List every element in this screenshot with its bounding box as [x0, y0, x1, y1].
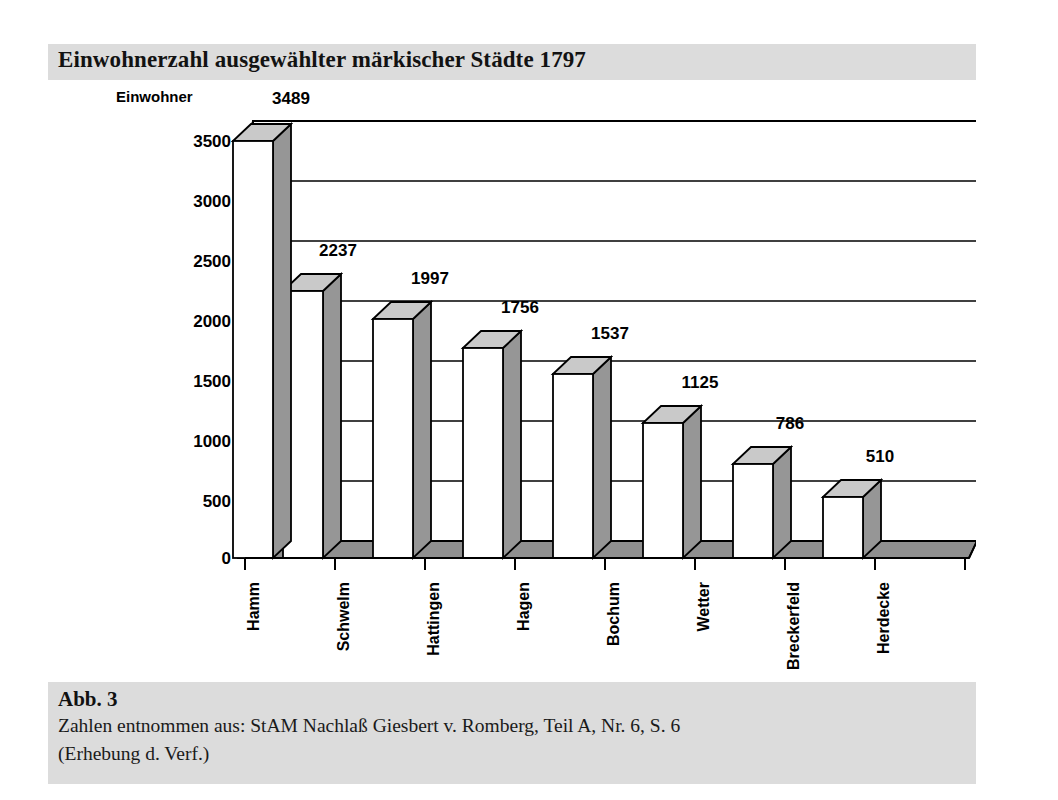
figure-title-band: Einwohnerzahl ausgewählter märkischer St…	[48, 44, 976, 80]
bar-value-label: 1537	[591, 324, 629, 343]
figure-caption-band: Abb. 3 Zahlen entnommen aus: StAM Nachla…	[48, 682, 976, 784]
page-title: Einwohnerzahl ausgewählter märkischer St…	[58, 47, 586, 73]
x-category-label: Bochum	[605, 582, 622, 646]
bar-value-label: 1756	[501, 298, 539, 317]
x-category-label: Hamm	[245, 582, 262, 631]
bar-hagen[interactable]	[463, 331, 521, 558]
bar-value-label: 3489	[272, 89, 310, 108]
bar-wetter[interactable]	[643, 406, 701, 558]
x-category-label: Hattingen	[425, 582, 442, 656]
y-tick-label: 0	[222, 549, 231, 568]
y-tick-labels: 0 500 1000 1500 2000 2500 3000 3500	[193, 132, 231, 568]
bar-bochum[interactable]	[553, 357, 611, 558]
x-category-label: Herdecke	[875, 582, 892, 654]
bar-hattingen[interactable]	[373, 302, 431, 558]
figure-source-line-2: (Erhebung d. Verf.)	[58, 743, 209, 765]
x-category-label: Wetter	[695, 582, 712, 632]
figure-container: Einwohnerzahl ausgewählter märkischer St…	[48, 44, 976, 784]
chart-plot-area: Einwohner	[48, 80, 976, 682]
bar-value-label: 1997	[411, 269, 449, 288]
bar-herdecke[interactable]	[823, 480, 881, 558]
x-category-labels: Hamm Schwelm Hattingen Hagen Bochum Wett…	[245, 582, 892, 670]
y-tick-label: 2500	[193, 252, 231, 271]
bar-hamm[interactable]	[233, 124, 291, 558]
x-category-label: Schwelm	[335, 582, 352, 651]
bar-chart-svg: Einwohner	[48, 80, 976, 682]
y-tick-label: 3500	[193, 132, 231, 151]
figure-source-line-1: Zahlen entnommen aus: StAM Nachlaß Giesb…	[58, 715, 680, 737]
y-tick-label: 1000	[193, 432, 231, 451]
y-tick-label: 2000	[193, 312, 231, 331]
bar-value-label: 2237	[319, 241, 357, 260]
bar-value-label: 1125	[682, 373, 719, 392]
figure-number: Abb. 3	[58, 687, 118, 712]
bar-value-label: 510	[866, 447, 894, 466]
x-category-label: Breckerfeld	[785, 582, 802, 670]
y-tick-label: 3000	[193, 192, 231, 211]
y-axis-title: Einwohner	[116, 88, 193, 105]
bar-breckerfeld[interactable]	[733, 447, 791, 558]
bar-value-label: 786	[776, 414, 804, 433]
y-tick-label: 500	[203, 492, 231, 511]
y-tick-label: 1500	[193, 372, 231, 391]
x-category-label: Hagen	[515, 582, 532, 631]
